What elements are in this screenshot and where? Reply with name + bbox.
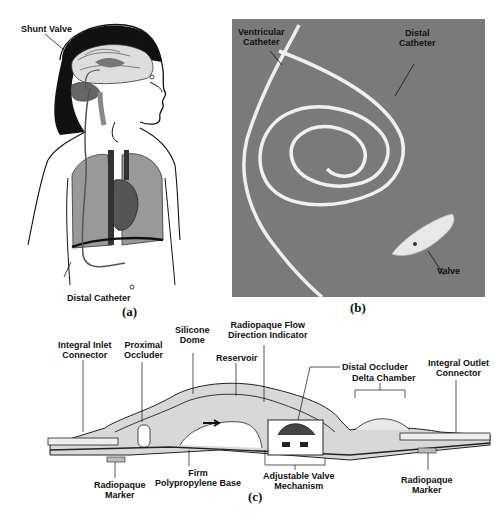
label-adjustable-line1: Adjustable Valve [263,471,335,481]
label-outlet-line2: Connector [428,368,489,378]
label-integral-inlet-connector: Integral Inlet Connector [58,340,112,360]
label-proximal-occluder: Proximal Occluder [124,340,163,360]
label-adjustable-line2: Mechanism [263,481,335,491]
label-valve: Valve [437,266,460,276]
label-marker-right-line1: Radiopaque [401,475,453,485]
label-inlet-line2: Connector [58,350,112,360]
panel-b-photograph: Ventricular Catheter Distal Catheter Val… [232,19,485,297]
label-distal-catheter-a: Distal Catheter [67,293,131,303]
label-marker-right-line2: Marker [401,485,453,495]
catheter-photo-drawing [232,19,485,297]
label-silicone-line1: Silicone [175,325,210,335]
label-distal-occluder: Distal Occluder [342,362,408,372]
caption-a: (a) [122,304,137,320]
label-radiopaque-marker-right: Radiopaque Marker [401,475,453,495]
label-radiopaque-flow-indicator: Radiopaque Flow Direction Indicator [228,320,308,340]
label-ventricular-catheter: Ventricular Catheter [238,27,285,47]
label-silicone-line2: Dome [175,335,210,345]
label-radiopaque-flow-line2: Direction Indicator [228,330,308,340]
child-anatomy-drawing [0,0,232,290]
label-proximal-line1: Proximal [124,340,163,350]
label-outlet-line1: Integral Outlet [428,358,489,368]
panel-c-cross-section: Silicone Dome Radiopaque Flow Direction … [0,320,502,495]
label-shunt-valve: Shunt Valve [21,24,72,34]
label-marker-left-line1: Radiopaque [94,480,146,490]
label-distal-b-line1: Distal [399,28,436,38]
panel-a-illustration: Shunt Valve Distal Catheter [0,0,232,290]
label-ventricular-line1: Ventricular [238,27,285,37]
label-base-line2: Polypropylene Base [155,478,241,488]
caption-c: (c) [248,489,262,505]
label-proximal-line2: Occluder [124,350,163,360]
label-silicone-dome: Silicone Dome [175,325,210,345]
label-firm-polypropylene-base: Firm Polypropylene Base [155,468,241,488]
label-radiopaque-flow-line1: Radiopaque Flow [228,320,308,330]
label-reservoir: Reservoir [216,353,258,363]
label-delta-chamber: Delta Chamber [352,373,416,383]
label-radiopaque-marker-left: Radiopaque Marker [94,480,146,500]
label-distal-b-line2: Catheter [399,38,436,48]
label-inlet-line1: Integral Inlet [58,340,112,350]
label-distal-catheter-b: Distal Catheter [399,28,436,48]
caption-b: (b) [350,300,366,316]
label-base-line1: Firm [155,468,241,478]
label-ventricular-line2: Catheter [238,37,285,47]
label-marker-left-line2: Marker [94,490,146,500]
label-integral-outlet-connector: Integral Outlet Connector [428,358,489,378]
label-adjustable-valve-mechanism: Adjustable Valve Mechanism [263,471,335,491]
